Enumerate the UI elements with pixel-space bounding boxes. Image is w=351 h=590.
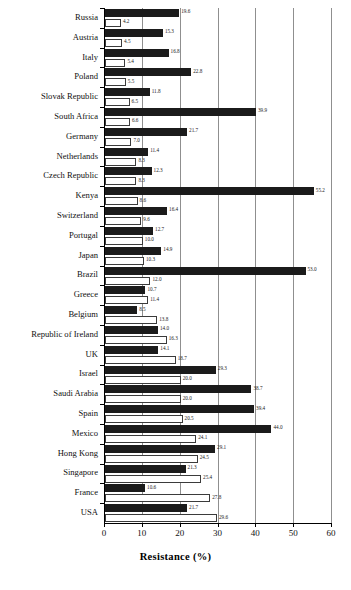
bar-value-label: 55.2	[316, 188, 325, 193]
gridline	[331, 8, 332, 523]
bar-row: 29.124.5	[104, 444, 331, 464]
category-tick	[100, 404, 104, 405]
bar-row: 21.325.4	[104, 464, 331, 484]
category-tick	[100, 226, 104, 227]
bar-dark	[105, 405, 254, 413]
category-tick	[100, 48, 104, 49]
bar-value-label: 10.7	[147, 287, 156, 292]
bar-dark	[105, 167, 152, 175]
bar-value-label: 8.5	[139, 307, 145, 312]
bar-row: 15.34.5	[104, 28, 331, 48]
bar-dark	[105, 148, 148, 156]
category-label: Greece	[74, 290, 98, 299]
bar-value-label: 14.9	[163, 247, 172, 252]
bar-value-label: 19.6	[181, 9, 190, 14]
bar-light	[105, 19, 121, 27]
category-tick	[100, 464, 104, 465]
bar-light	[105, 395, 181, 403]
x-tick-label: 50	[278, 529, 308, 538]
bar-dark	[105, 29, 163, 37]
category-tick	[100, 127, 104, 128]
bar-value-label: 25.4	[203, 475, 212, 480]
category-label: Mexico	[72, 429, 98, 438]
x-tick	[104, 523, 105, 527]
bar-light	[105, 494, 210, 502]
bar-dark	[105, 207, 167, 215]
bar-value-label: 20.5	[185, 416, 194, 421]
bar-dark	[105, 9, 179, 17]
x-axis-title: Resistance (%)	[0, 551, 351, 562]
plot-area: 19.64.215.34.516.85.422.85.511.86.539.96…	[104, 8, 331, 523]
bar-light	[105, 277, 150, 285]
category-label: France	[75, 488, 98, 497]
category-label: Japan	[78, 251, 98, 260]
bar-value-label: 8.3	[138, 158, 144, 163]
bar-value-label: 22.8	[193, 69, 202, 74]
resistance-bar-chart: RussiaAustriaItalyPolandSlovak RepublicS…	[0, 0, 351, 590]
category-label: Saudi Arabia	[53, 389, 98, 398]
bar-dark	[105, 346, 158, 354]
bar-value-label: 21.3	[188, 465, 197, 470]
category-tick	[100, 246, 104, 247]
x-tick	[255, 523, 256, 527]
x-tick-label: 10	[127, 529, 157, 538]
category-tick	[100, 444, 104, 445]
bar-value-label: 29.1	[217, 445, 226, 450]
category-tick	[100, 483, 104, 484]
bar-value-label: 20.0	[183, 376, 192, 381]
bar-row: 44.024.1	[104, 424, 331, 444]
bar-value-label: 11.8	[152, 89, 161, 94]
bar-row: 10.627.8	[104, 483, 331, 503]
category-tick	[100, 8, 104, 9]
bar-value-label: 39.4	[256, 406, 265, 411]
bar-row: 16.85.4	[104, 48, 331, 68]
bar-value-label: 12.7	[155, 227, 164, 232]
bar-light	[105, 59, 125, 67]
bar-row: 39.96.6	[104, 107, 331, 127]
bar-value-label: 38.7	[253, 386, 262, 391]
category-tick	[100, 285, 104, 286]
bar-value-label: 18.7	[178, 356, 187, 361]
bar-dark	[105, 227, 153, 235]
bar-value-label: 4.5	[124, 39, 130, 44]
bar-row: 14.016.3	[104, 325, 331, 345]
bar-dark	[105, 484, 145, 492]
x-tick-label: 20	[165, 529, 195, 538]
category-tick	[100, 186, 104, 187]
x-tick	[180, 523, 181, 527]
category-tick	[100, 384, 104, 385]
x-tick-label: 30	[203, 529, 233, 538]
bar-dark	[105, 108, 256, 116]
category-label: Russia	[75, 13, 98, 22]
x-tick-label: 40	[240, 529, 270, 538]
bar-dark	[105, 286, 145, 294]
bar-row: 12.710.0	[104, 226, 331, 246]
category-label: Israel	[79, 369, 98, 378]
bar-row: 16.49.6	[104, 206, 331, 226]
bar-light	[105, 475, 201, 483]
bar-value-label: 20.0	[183, 396, 192, 401]
bar-value-label: 10.6	[147, 485, 156, 490]
bar-dark	[105, 187, 314, 195]
bar-light	[105, 158, 136, 166]
bar-value-label: 13.8	[159, 317, 168, 322]
bar-dark	[105, 306, 137, 314]
bar-light	[105, 197, 138, 205]
category-label: Germany	[66, 132, 98, 141]
category-label: UK	[86, 350, 98, 359]
bar-light	[105, 237, 143, 245]
category-tick	[100, 345, 104, 346]
bar-light	[105, 415, 183, 423]
bar-value-label: 29.3	[218, 366, 227, 371]
bar-value-label: 6.5	[132, 99, 138, 104]
bar-light	[105, 356, 176, 364]
category-tick	[100, 305, 104, 306]
category-label: Spain	[78, 409, 98, 418]
bar-row: 38.720.0	[104, 384, 331, 404]
bar-dark	[105, 425, 271, 433]
bar-row: 14.118.7	[104, 345, 331, 365]
bar-dark	[105, 445, 215, 453]
bar-value-label: 12.3	[154, 168, 163, 173]
category-tick	[100, 424, 104, 425]
category-tick	[100, 206, 104, 207]
